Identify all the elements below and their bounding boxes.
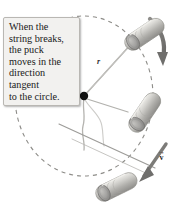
callout-line: moves in the xyxy=(9,56,75,68)
broken-string-segment xyxy=(82,98,104,150)
puck-position-bottom xyxy=(93,170,140,204)
callout-line: to the circle. xyxy=(9,91,75,103)
velocity-label-text: v xyxy=(160,153,164,162)
explanation-callout: When the string breaks, the puck moves i… xyxy=(3,17,80,106)
callout-line: string breaks, xyxy=(9,33,75,45)
string-stub-right xyxy=(84,98,128,112)
radius-label: r xyxy=(97,57,100,66)
velocity-label: → v xyxy=(158,150,165,161)
puck-position-right xyxy=(126,90,164,136)
callout-line: tangent xyxy=(9,79,75,91)
physics-figure-circular-motion: When the string breaks, the puck moves i… xyxy=(0,0,176,213)
callout-line: When the xyxy=(9,21,75,33)
center-pivot-dot xyxy=(80,92,88,100)
callout-line: direction xyxy=(9,67,75,79)
callout-line: the puck xyxy=(9,44,75,56)
radius-string-line xyxy=(84,42,133,96)
